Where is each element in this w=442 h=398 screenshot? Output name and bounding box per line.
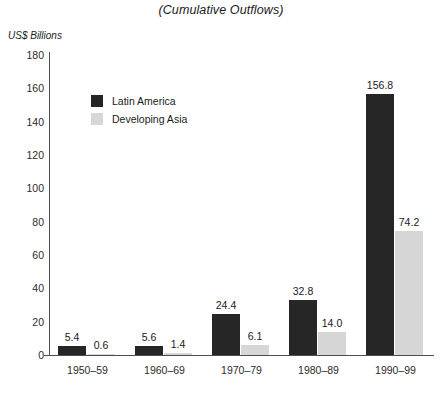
- legend-item-label: Latin America: [112, 95, 176, 107]
- x-axis-tick-label: 1990–99: [351, 364, 441, 376]
- y-axis-tick-label: 120: [4, 149, 44, 161]
- bar-group: 24.46.1: [204, 55, 279, 355]
- y-axis-tick-labels: 180160140120100806040200: [0, 55, 44, 355]
- y-axis-tick-label: 80: [4, 216, 44, 228]
- y-axis-tick-label: 100: [4, 182, 44, 194]
- y-axis-tick-label: 0: [4, 349, 44, 361]
- bar-value-label: 156.8: [357, 79, 403, 91]
- y-axis-tick-label: 40: [4, 282, 44, 294]
- legend-swatch-icon: [91, 113, 103, 125]
- bar-developing-asia[interactable]: [241, 345, 269, 355]
- bar-group: 156.874.2: [358, 55, 433, 355]
- bar-developing-asia[interactable]: [87, 354, 115, 355]
- bar-developing-asia[interactable]: [395, 231, 423, 355]
- bar-developing-asia[interactable]: [164, 353, 192, 355]
- y-axis-tick-label: 140: [4, 116, 44, 128]
- y-axis-tick-label: 20: [4, 316, 44, 328]
- bar-value-label: 1.4: [155, 338, 201, 350]
- legend-item[interactable]: Latin America: [91, 92, 187, 110]
- chart-legend: Latin AmericaDeveloping Asia: [91, 92, 187, 128]
- bar-value-label: 24.4: [203, 299, 249, 311]
- chart-page: (Cumulative Outflows) US$ Billions 18016…: [0, 0, 442, 398]
- legend-swatch-icon: [91, 95, 103, 107]
- legend-item-label: Developing Asia: [112, 113, 187, 125]
- chart-title: (Cumulative Outflows): [0, 3, 442, 17]
- y-axis-title: US$ Billions: [8, 30, 62, 41]
- x-axis-line: [44, 355, 434, 356]
- bar-value-label: 6.1: [232, 330, 278, 342]
- bar-value-label: 14.0: [309, 317, 355, 329]
- bar-developing-asia[interactable]: [318, 332, 346, 355]
- y-axis-tick-label: 180: [4, 49, 44, 61]
- bar-value-label: 74.2: [386, 216, 432, 228]
- bar-value-label: 0.6: [78, 339, 124, 351]
- y-axis-tick-label: 160: [4, 82, 44, 94]
- bar-value-label: 32.8: [280, 285, 326, 297]
- y-axis-tick-label: 60: [4, 249, 44, 261]
- legend-item[interactable]: Developing Asia: [91, 110, 187, 128]
- bar-group: 32.814.0: [281, 55, 356, 355]
